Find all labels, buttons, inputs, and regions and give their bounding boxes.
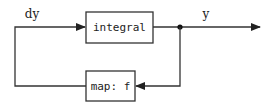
block-diagram: integral map: f dy y: [0, 0, 274, 110]
map-block-label: map: f: [91, 80, 131, 93]
map-block: map: f: [86, 71, 135, 101]
dy-signal-line: [15, 27, 86, 86]
y-label: y: [202, 7, 210, 21]
integral-block: integral: [86, 12, 153, 43]
dy-label: dy: [25, 7, 40, 21]
integral-block-label: integral: [93, 21, 146, 34]
